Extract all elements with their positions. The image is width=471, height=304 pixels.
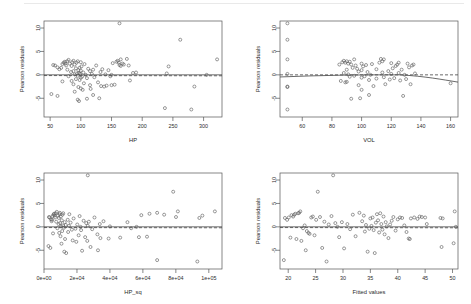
svg-text:10: 10 bbox=[35, 25, 41, 31]
figure-canvas: 1050-550100150200250300HPPearson residua… bbox=[0, 0, 471, 304]
svg-text:5: 5 bbox=[35, 202, 41, 205]
svg-text:-5: -5 bbox=[271, 96, 277, 101]
plot-area-hp: 1050-550100150200250300HPPearson residua… bbox=[0, 0, 235, 152]
svg-text:Pearson residuals: Pearson residuals bbox=[255, 198, 261, 245]
svg-text:2e+04: 2e+04 bbox=[69, 275, 84, 281]
svg-text:VOL: VOL bbox=[363, 137, 375, 143]
svg-text:10: 10 bbox=[271, 25, 277, 31]
plot-area-fitted: 1050-520253035404550Fitted valuesPearson… bbox=[236, 152, 471, 304]
svg-text:100: 100 bbox=[357, 123, 366, 129]
svg-text:4e+04: 4e+04 bbox=[102, 275, 117, 281]
svg-text:60: 60 bbox=[299, 123, 305, 129]
svg-text:Fitted values: Fitted values bbox=[353, 289, 386, 295]
svg-text:5: 5 bbox=[271, 202, 277, 205]
svg-text:10: 10 bbox=[271, 177, 277, 183]
svg-text:25: 25 bbox=[313, 275, 319, 281]
svg-text:Pearson residuals: Pearson residuals bbox=[19, 46, 25, 93]
svg-text:HP: HP bbox=[129, 137, 137, 143]
panel-hpsq: 1050-50e+002e+044e+046e+048e+041e+05HP_s… bbox=[0, 152, 235, 304]
svg-text:300: 300 bbox=[199, 123, 208, 129]
plot-area-vol: 1050-56080100120140160VOLPearson residua… bbox=[236, 0, 471, 152]
svg-text:45: 45 bbox=[422, 275, 428, 281]
svg-text:120: 120 bbox=[387, 123, 396, 129]
svg-text:150: 150 bbox=[107, 123, 116, 129]
svg-text:160: 160 bbox=[446, 123, 455, 129]
svg-text:HP_sq: HP_sq bbox=[124, 289, 141, 295]
panel-vol: 1050-56080100120140160VOLPearson residua… bbox=[236, 0, 471, 152]
svg-text:6e+04: 6e+04 bbox=[135, 275, 150, 281]
svg-text:Pearson residuals: Pearson residuals bbox=[255, 46, 261, 93]
svg-text:5: 5 bbox=[271, 50, 277, 53]
svg-text:20: 20 bbox=[285, 275, 291, 281]
svg-text:-5: -5 bbox=[271, 248, 277, 253]
svg-text:1e+05: 1e+05 bbox=[201, 275, 216, 281]
svg-text:0: 0 bbox=[271, 225, 277, 228]
svg-text:0: 0 bbox=[35, 225, 41, 228]
svg-text:35: 35 bbox=[367, 275, 373, 281]
svg-text:Pearson residuals: Pearson residuals bbox=[19, 198, 25, 245]
svg-text:200: 200 bbox=[138, 123, 147, 129]
panel-hp: 1050-550100150200250300HPPearson residua… bbox=[0, 0, 235, 152]
svg-text:40: 40 bbox=[395, 275, 401, 281]
svg-text:-5: -5 bbox=[35, 248, 41, 253]
svg-text:250: 250 bbox=[168, 123, 177, 129]
svg-text:5: 5 bbox=[35, 50, 41, 53]
svg-text:100: 100 bbox=[76, 123, 85, 129]
svg-text:50: 50 bbox=[47, 123, 53, 129]
panel-fitted: 1050-520253035404550Fitted valuesPearson… bbox=[236, 152, 471, 304]
svg-text:10: 10 bbox=[35, 177, 41, 183]
svg-text:0: 0 bbox=[35, 73, 41, 76]
svg-text:50: 50 bbox=[450, 275, 456, 281]
svg-text:8e+04: 8e+04 bbox=[168, 275, 183, 281]
svg-text:0e+00: 0e+00 bbox=[36, 275, 51, 281]
svg-text:80: 80 bbox=[329, 123, 335, 129]
svg-text:-5: -5 bbox=[35, 96, 41, 101]
svg-text:30: 30 bbox=[340, 275, 346, 281]
svg-text:140: 140 bbox=[416, 123, 425, 129]
svg-text:0: 0 bbox=[271, 73, 277, 76]
plot-area-hpsq: 1050-50e+002e+044e+046e+048e+041e+05HP_s… bbox=[0, 152, 235, 304]
